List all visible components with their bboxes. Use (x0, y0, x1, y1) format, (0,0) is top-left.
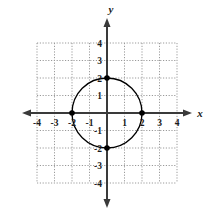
coordinate-plane: -4 -3 -2 -1 1 2 3 4 4 3 2 1 -1 -2 -3 -4 … (0, 0, 220, 216)
y-tick-label: -3 (94, 161, 102, 171)
x-tick-label: -3 (51, 118, 59, 128)
x-tick-label: 2 (140, 118, 145, 128)
x-tick-label: 1 (122, 118, 127, 128)
y-tick-label: 4 (97, 39, 102, 49)
x-axis-arrow-left (22, 110, 31, 117)
y-tick-label: -2 (94, 144, 102, 154)
y-tick-label: 3 (97, 56, 102, 66)
x-tick-label: 3 (157, 118, 162, 128)
point-neg2-0 (69, 110, 75, 116)
x-tick-label: 4 (175, 118, 180, 128)
x-tick-label: -4 (33, 118, 41, 128)
y-axis-arrow-down (104, 199, 111, 208)
graph-figure: -4 -3 -2 -1 1 2 3 4 4 3 2 1 -1 -2 -3 -4 … (0, 0, 220, 216)
point-0-2 (104, 75, 110, 81)
x-tick-label: -2 (68, 118, 76, 128)
y-axis-arrow-up (104, 18, 111, 27)
point-0-neg2 (104, 145, 110, 151)
y-tick-label: 2 (97, 74, 102, 84)
y-tick-label: 1 (97, 91, 102, 101)
y-tick-label: -1 (94, 126, 102, 136)
x-tick-label: -1 (86, 118, 94, 128)
x-axis-label: x (196, 107, 203, 119)
point-2-0 (139, 110, 145, 116)
y-axis-label: y (107, 3, 114, 15)
x-axis-arrow-right (183, 110, 192, 117)
y-tick-label: -4 (94, 179, 102, 189)
